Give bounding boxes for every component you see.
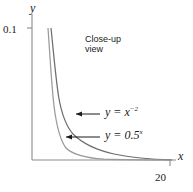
arrow-to-power-law-curve: [76, 111, 100, 116]
curve-label-exponential-exponent: x: [139, 128, 142, 136]
curve-label-power-law-base: y = x: [105, 105, 130, 119]
curve-label-exponential: y = 0.5x: [105, 129, 143, 141]
curve-label-exponential-base: y = 0.5: [105, 128, 139, 142]
curve-label-power-law: y = x−2: [105, 106, 138, 118]
plot-canvas: [0, 0, 193, 192]
closeup-view-annotation-line1: Close-up: [85, 34, 121, 44]
closeup-view-annotation-line2: view: [85, 44, 121, 54]
y-axis-tick-label-0-1: 0.1: [3, 24, 17, 35]
arrow-to-exponential-curve: [66, 134, 100, 139]
y-axis-label: y: [30, 2, 35, 14]
figure-close-up-view-decay: y x 0.1 20 Close-up view y = x−2 y = 0.5…: [0, 0, 193, 192]
curve-label-power-law-exponent: −2: [130, 105, 138, 113]
x-axis-tick-label-20: 20: [155, 172, 166, 183]
x-axis-label: x: [178, 150, 183, 162]
closeup-view-annotation: Close-up view: [85, 34, 121, 55]
